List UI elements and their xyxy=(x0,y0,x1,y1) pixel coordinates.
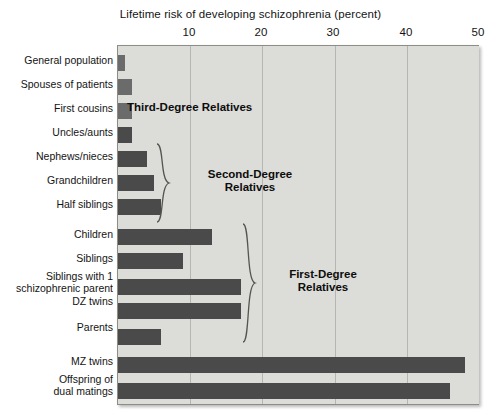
category-label-general-population: General population xyxy=(0,55,113,67)
annotation-first-degree-relatives: First-Degree Relatives xyxy=(258,268,388,294)
bar-siblings xyxy=(118,253,183,269)
x-tick-40: 40 xyxy=(400,26,413,38)
bar-offspring-of-dual-matings xyxy=(118,383,450,399)
annotation-third-degree-relatives: Third-Degree Relatives xyxy=(127,101,297,114)
bar-siblings-with-1-schizophrenic-parent xyxy=(118,279,241,295)
category-label-first-cousins: First cousins xyxy=(0,103,113,115)
category-label-spouses-of-patients: Spouses of patients xyxy=(0,79,113,91)
x-tick-10: 10 xyxy=(183,26,196,38)
bar-parents xyxy=(118,329,161,345)
bar-mz-twins xyxy=(118,357,465,373)
x-axis-tick-labels: 10 20 30 40 50 xyxy=(0,26,501,42)
bar-spouses-of-patients xyxy=(118,79,132,95)
bar-general-population xyxy=(118,55,125,71)
x-tick-30: 30 xyxy=(327,26,340,38)
bar-series xyxy=(118,46,479,404)
category-label-siblings-with-1-schizophrenic-parent: Siblings with 1 schizophrenic parent xyxy=(0,271,113,294)
brace-second-degree xyxy=(155,142,171,224)
category-label-nephews-nieces: Nephews/nieces xyxy=(0,151,113,163)
x-tick-20: 20 xyxy=(255,26,268,38)
y-axis-category-labels: General population Spouses of patients F… xyxy=(0,45,113,405)
category-label-offspring-of-dual-matings: Offspring of dual matings xyxy=(0,374,113,397)
x-tick-50: 50 xyxy=(472,26,485,38)
category-label-dz-twins: DZ twins xyxy=(0,296,113,308)
plot-area: Third-Degree Relatives Second-Degree Rel… xyxy=(117,45,479,405)
category-label-siblings: Siblings xyxy=(0,253,113,265)
category-label-mz-twins: MZ twins xyxy=(0,356,113,368)
category-label-half-siblings: Half siblings xyxy=(0,199,113,211)
category-label-children: Children xyxy=(0,229,113,241)
chart-figure: Lifetime risk of developing schizophreni… xyxy=(0,0,501,420)
annotation-second-degree-relatives: Second-Degree Relatives xyxy=(180,168,320,194)
brace-first-degree xyxy=(241,222,257,344)
bar-dz-twins xyxy=(118,303,241,319)
category-label-grandchildren: Grandchildren xyxy=(0,175,113,187)
bar-nephews-nieces xyxy=(118,151,147,167)
bar-grandchildren xyxy=(118,175,154,191)
chart-title: Lifetime risk of developing schizophreni… xyxy=(0,8,501,20)
bar-children xyxy=(118,229,212,245)
bar-uncles-aunts xyxy=(118,127,132,143)
category-label-uncles-aunts: Uncles/aunts xyxy=(0,127,113,139)
category-label-parents: Parents xyxy=(0,322,113,334)
